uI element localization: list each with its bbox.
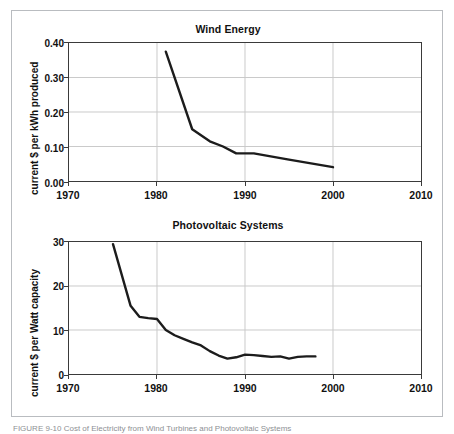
xtick-mark-wind-2000 xyxy=(333,182,334,186)
ytick-mark-wind-2 xyxy=(64,112,68,113)
xtick-wind-1990: 1990 xyxy=(220,189,270,201)
chart-wind-energy: Wind Energy current $ per kWh produced 0… xyxy=(12,23,444,213)
ytick-pv-0: 30 xyxy=(30,237,64,248)
xtick-wind-2010: 2010 xyxy=(396,189,446,201)
plot-area-pv xyxy=(68,241,422,375)
xtick-mark-pv-1980 xyxy=(156,375,157,379)
plot-svg-pv xyxy=(69,242,421,374)
ytick-pv-3: 0 xyxy=(30,370,64,381)
ytick-wind-0: 0.40 xyxy=(30,38,64,49)
xtick-pv-1980: 1980 xyxy=(131,382,181,394)
xtick-mark-pv-2000 xyxy=(333,375,334,379)
ytick-mark-wind-1 xyxy=(64,147,68,148)
xtick-pv-1970: 1970 xyxy=(43,382,93,394)
ytick-pv-2: 10 xyxy=(30,326,64,337)
ytick-mark-wind-3 xyxy=(64,77,68,78)
ytick-mark-pv-3 xyxy=(64,241,68,242)
xtick-wind-2000: 2000 xyxy=(308,189,358,201)
chart-title-pv: Photovoltaic Systems xyxy=(12,219,444,231)
xtick-mark-wind-1980 xyxy=(156,182,157,186)
figure-caption: FIGURE 9-10 Cost of Electricity from Win… xyxy=(13,424,443,434)
ytick-wind-3: 0.10 xyxy=(30,143,64,154)
xtick-mark-wind-1970 xyxy=(68,182,69,186)
xtick-wind-1980: 1980 xyxy=(131,189,181,201)
data-line-pv xyxy=(113,244,315,358)
plot-svg-wind xyxy=(69,43,421,181)
xtick-pv-2000: 2000 xyxy=(308,382,358,394)
xtick-pv-2010: 2010 xyxy=(396,382,446,394)
chart-photovoltaic-systems: Photovoltaic Systems current $ per Watt … xyxy=(12,219,444,409)
chart-title-wind: Wind Energy xyxy=(12,23,444,35)
ytick-wind-4: 0.00 xyxy=(30,178,64,189)
xtick-mark-pv-1970 xyxy=(68,375,69,379)
ytick-wind-2: 0.20 xyxy=(30,108,64,119)
figure-frame: Wind Energy current $ per kWh produced 0… xyxy=(11,10,443,417)
xtick-mark-wind-2010 xyxy=(421,182,422,186)
xtick-pv-1990: 1990 xyxy=(220,382,270,394)
xtick-mark-pv-2010 xyxy=(421,375,422,379)
ytick-mark-pv-2 xyxy=(64,286,68,287)
xtick-mark-pv-1990 xyxy=(245,375,246,379)
ytick-wind-1: 0.30 xyxy=(30,73,64,84)
ytick-pv-1: 20 xyxy=(30,281,64,292)
data-line-wind xyxy=(166,52,333,168)
ytick-mark-wind-4 xyxy=(64,42,68,43)
plot-area-wind xyxy=(68,42,422,182)
ytick-mark-pv-1 xyxy=(64,330,68,331)
xtick-mark-wind-1990 xyxy=(245,182,246,186)
xtick-wind-1970: 1970 xyxy=(43,189,93,201)
